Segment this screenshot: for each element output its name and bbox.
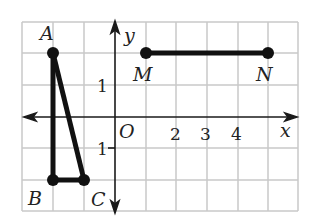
x-tick-label-4: 4 — [231, 124, 242, 144]
point-b — [47, 174, 59, 186]
x-tick-label-2: 2 — [170, 124, 181, 144]
label-n: N — [255, 63, 274, 85]
coordinate-grid: A B C M N y x O 1 1 2 3 4 — [0, 0, 316, 220]
x-tick-label-3: 3 — [200, 124, 211, 144]
axes — [24, 21, 297, 213]
x-axis-label: x — [280, 119, 291, 141]
point-m — [140, 47, 152, 59]
label-c: C — [91, 188, 106, 210]
label-a: A — [38, 22, 54, 44]
label-m: M — [132, 63, 153, 85]
label-b: B — [27, 187, 42, 209]
point-a — [47, 47, 59, 59]
y-tick-label-neg1: 1 — [97, 139, 108, 159]
origin-label: O — [119, 120, 135, 142]
y-axis-label: y — [123, 24, 135, 46]
point-c — [78, 174, 90, 186]
y-tick-label-1: 1 — [97, 76, 108, 96]
point-n — [262, 47, 274, 59]
